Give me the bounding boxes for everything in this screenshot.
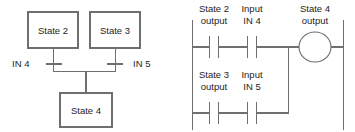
contact-input-in4: Input IN 4	[241, 3, 262, 58]
contact-state2-output-label-line1: State 2	[199, 3, 229, 14]
coil-state4-output-shape	[299, 32, 331, 62]
contact-state2-output: State 2 output	[199, 3, 229, 58]
contact-state3-output: State 3 output	[199, 69, 229, 124]
transition-in5: IN 5	[107, 58, 150, 69]
coil-state4-output-label-line2: output	[302, 15, 329, 26]
state-box-state4: State 4	[60, 93, 112, 127]
coil-state4-output: State 4 output	[299, 3, 331, 62]
ladder-rung-2: State 3 output Input IN 5	[193, 69, 289, 124]
contact-input-in4-label-line2: IN 4	[243, 15, 260, 26]
state-transition-diagram: State 2 State 3 State 4 IN	[12, 12, 150, 127]
state-box-state3-label: State 3	[100, 25, 130, 36]
state-box-state2: State 2	[28, 12, 78, 48]
state-box-state3: State 3	[90, 12, 140, 48]
contact-input-in5-label-line1: Input	[241, 69, 262, 80]
figure-root: State 2 State 3 State 4 IN	[0, 0, 355, 132]
contact-input-in5: Input IN 5	[241, 69, 262, 124]
contact-input-in5-label-line2: IN 5	[243, 81, 260, 92]
contact-input-in4-label-line1: Input	[241, 3, 262, 14]
coil-state4-output-label-line1: State 4	[300, 3, 330, 14]
transition-in4: IN 4	[12, 58, 62, 69]
contact-state3-output-label-line2: output	[201, 81, 228, 92]
contact-state3-output-label-line1: State 3	[199, 69, 229, 80]
figure-canvas: State 2 State 3 State 4 IN	[0, 0, 355, 132]
ladder-logic-diagram: State 2 output Input IN 4 State 4 output	[193, 3, 344, 130]
transition-in4-label: IN 4	[12, 58, 29, 69]
contact-state2-output-label-line2: output	[201, 15, 228, 26]
transition-in5-label: IN 5	[133, 58, 150, 69]
state-box-state2-label: State 2	[38, 25, 68, 36]
state-box-state4-label: State 4	[71, 105, 101, 116]
